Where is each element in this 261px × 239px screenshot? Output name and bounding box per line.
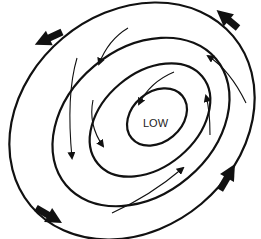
center-label: LOW (143, 117, 169, 129)
low-pressure-diagram: LOW (0, 0, 261, 239)
isobar-4 (0, 0, 261, 239)
isobars (0, 0, 261, 239)
arrow-outer-bottom-left-icon (32, 201, 66, 230)
arrow-inner-2-icon (70, 58, 77, 158)
arrow-outer-top-left-icon (31, 25, 65, 52)
